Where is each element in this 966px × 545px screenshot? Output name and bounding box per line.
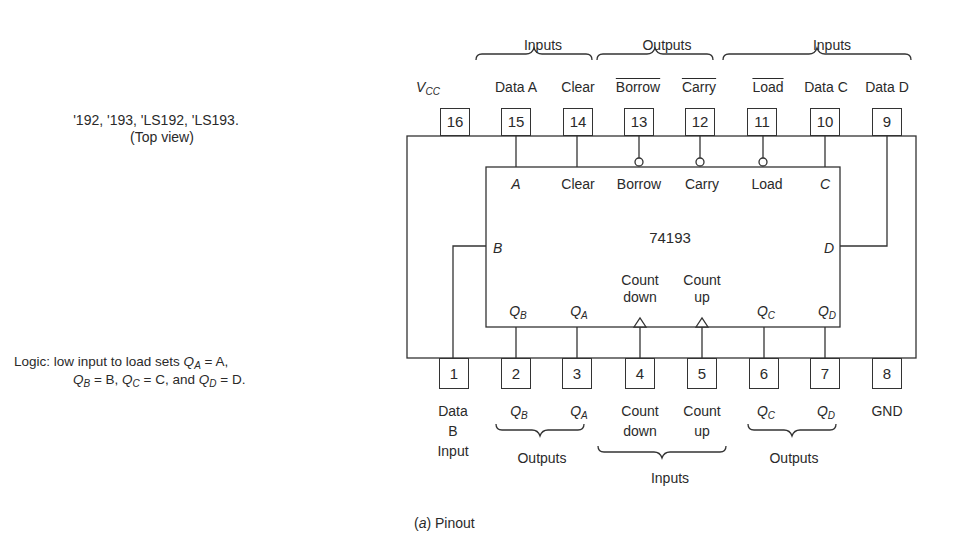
q-symbol: Q (818, 303, 829, 319)
pin-3: 3 (562, 358, 592, 389)
pin10-label: Data C (804, 79, 848, 95)
pin7-label: QD (817, 403, 835, 419)
chip-count-down-2: down (623, 289, 656, 305)
chip-out-qc: QC (757, 303, 775, 319)
logic-text: Logic: low input to load sets (14, 354, 184, 369)
pin4-label-1: Count (621, 403, 658, 419)
q-subscript: A (581, 410, 588, 421)
logic-text: = C, and (140, 372, 199, 387)
chip-in-c: C (820, 176, 830, 192)
brace-bottom-outputs-1 (496, 424, 584, 436)
pin-9: 9 (872, 108, 902, 136)
pin-8: 8 (872, 358, 902, 389)
q-symbol: Q (817, 403, 828, 419)
chip-in-load: Load (751, 176, 782, 192)
chip-outline (486, 167, 840, 327)
brace-bottom-outputs-2 (748, 424, 836, 436)
pin5-label-2: up (694, 423, 710, 439)
brace-bottom-inputs (598, 446, 726, 458)
q-symbol: Q (509, 303, 520, 319)
q-subscript: C (133, 378, 140, 389)
chip-in-clear: Clear (561, 176, 594, 192)
pin4-label-2: down (623, 423, 656, 439)
q-symbol: Q (199, 372, 210, 387)
q-symbol: Q (73, 372, 84, 387)
chip-in-b: B (493, 240, 502, 256)
chip-in-carry: Carry (685, 176, 719, 192)
pin1-label-2: B (448, 423, 457, 439)
logic-text: = D. (217, 372, 246, 387)
pin-15: 15 (501, 108, 531, 136)
vcc-v: V (416, 79, 425, 95)
q-symbol: Q (757, 403, 768, 419)
q-subscript: D (828, 410, 835, 421)
pin13-label: Borrow (616, 79, 660, 95)
q-symbol: Q (510, 403, 521, 419)
q-subscript: A (581, 310, 588, 321)
q-subscript: D (829, 310, 836, 321)
bottom-group-outputs-1: Outputs (517, 450, 566, 466)
pin-4: 4 (625, 358, 655, 389)
q-subscript: D (209, 378, 216, 389)
pin-2: 2 (501, 358, 531, 389)
caption-letter: a (419, 515, 427, 531)
bottom-group-outputs-2: Outputs (769, 450, 818, 466)
figure-caption: (a) Pinout (414, 515, 475, 531)
vcc-sub: CC (425, 86, 439, 97)
pin14-label: Clear (561, 79, 594, 95)
chip-out-qb: QB (509, 303, 527, 319)
pin11-label: Load (752, 79, 783, 95)
bottom-group-inputs: Inputs (651, 470, 689, 486)
top-group-inputs-1: Inputs (524, 37, 562, 53)
logic-note-line2: QB = B, QC = C, and QD = D. (73, 372, 245, 388)
top-group-inputs-2: Inputs (813, 37, 851, 53)
chip-out-qd: QD (818, 303, 836, 319)
q-symbol: Q (122, 372, 133, 387)
pin-13: 13 (624, 108, 654, 136)
pin-12: 12 (685, 108, 715, 136)
logic-note-line1: Logic: low input to load sets QA = A, (14, 354, 228, 370)
q-symbol: Q (570, 303, 581, 319)
pin-11: 11 (747, 108, 777, 136)
pin9-label: Data D (865, 79, 909, 95)
part-numbers: '192, '193, 'LS192, 'LS193. (73, 112, 239, 128)
q-subscript: B (520, 310, 527, 321)
q-symbol: Q (570, 403, 581, 419)
pin15-label: Data A (495, 79, 537, 95)
q-symbol: Q (757, 303, 768, 319)
q-symbol: Q (184, 354, 195, 369)
chip-in-borrow: Borrow (617, 176, 661, 192)
q-subscript: C (768, 410, 775, 421)
q-subscript: C (768, 310, 775, 321)
chip-name: 74193 (649, 230, 691, 246)
logic-text: = A, (201, 354, 228, 369)
pin6-label: QC (757, 403, 775, 419)
chip-count-up-1: Count (683, 272, 720, 288)
pin-7: 7 (810, 358, 840, 389)
chip-count-down-1: Count (621, 272, 658, 288)
chip-in-d: D (824, 240, 834, 256)
pin3-label: QA (570, 403, 588, 419)
chip-in-a: A (511, 176, 520, 192)
pin-1: 1 (439, 358, 469, 389)
top-group-outputs: Outputs (642, 37, 691, 53)
chip-out-qa: QA (570, 303, 588, 319)
pin-14: 14 (563, 108, 593, 136)
pin1-label-3: Input (437, 443, 468, 459)
pin16-label-vcc: VCC (416, 79, 440, 95)
pin-6: 6 (749, 358, 779, 389)
logic-text: = B, (90, 372, 122, 387)
pin-16: 16 (440, 108, 470, 136)
chip-count-up-2: up (694, 289, 710, 305)
pin2-label: QB (510, 403, 528, 419)
pin12-label: Carry (682, 79, 716, 95)
q-subscript: A (194, 360, 201, 371)
top-view-label: (Top view) (130, 129, 194, 145)
caption-text: Pinout (431, 515, 475, 531)
pin1-label-1: Data (438, 403, 468, 419)
q-subscript: B (521, 410, 528, 421)
pin-5: 5 (687, 358, 717, 389)
pin8-label: GND (871, 403, 902, 419)
pin-10: 10 (810, 108, 840, 136)
pin5-label-1: Count (683, 403, 720, 419)
